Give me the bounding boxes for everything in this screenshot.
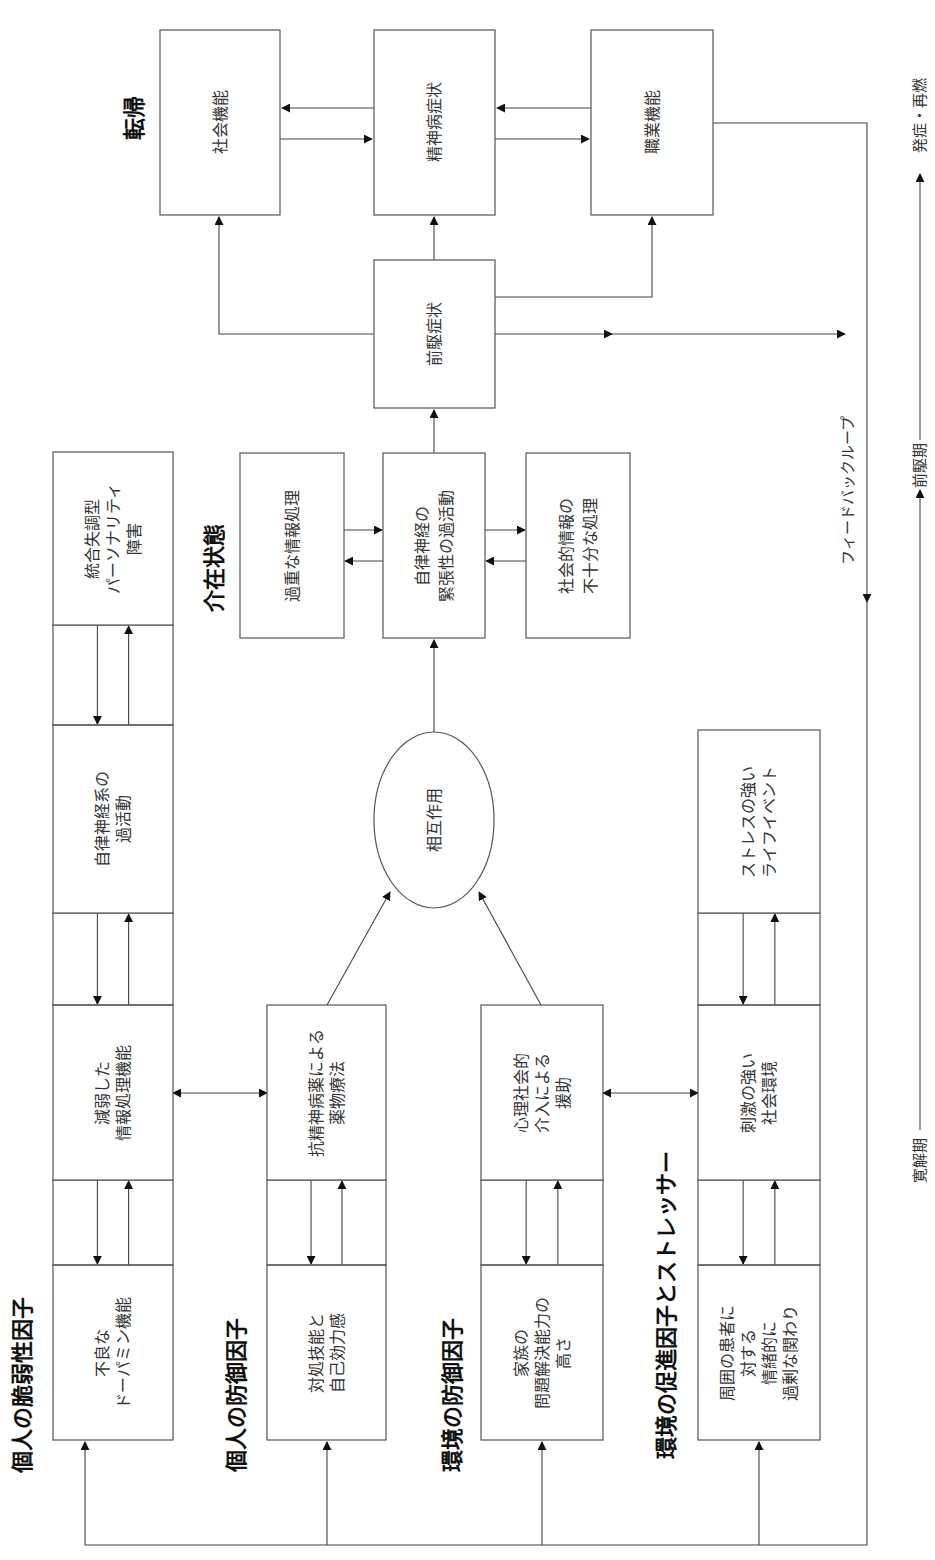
environmental-stressors-box-label-line: 周囲の患者に bbox=[718, 1305, 737, 1401]
vulnerability-box-label-line: 自律神経系の bbox=[93, 771, 112, 867]
environmental-stressors-box-label-line: 情緒的に bbox=[760, 1321, 779, 1385]
outcome-box-label: 精神病症状 bbox=[425, 82, 444, 162]
arrow-prodromal-to-occupational bbox=[495, 217, 652, 297]
environmental-stressors-box-label-line: 対する bbox=[739, 1329, 758, 1377]
prodromal-label-line: 前駆症状 bbox=[425, 302, 444, 366]
environmental-stressors-box-label-line: 社会環境 bbox=[760, 1061, 779, 1125]
vulnerability-stress-model-diagram: 不良なドーパミン機能減弱した情報処理機能自律神経系の過活動統合失調型パーソナリテ… bbox=[0, 0, 935, 1560]
outcome-box-label-line: 職業機能 bbox=[643, 90, 662, 154]
prodromal-label: 前駆症状 bbox=[425, 302, 444, 366]
personal-protective-box bbox=[267, 1265, 386, 1440]
outcome-box-label-line: 社会機能 bbox=[211, 90, 230, 154]
environmental-stressors-box-label-line: ライフイベント bbox=[760, 766, 779, 878]
timeline-phase-prodromal: 前駆期 bbox=[911, 443, 929, 488]
environmental-stressors-box bbox=[698, 1265, 820, 1440]
timeline-phase-remission: 寛解期 bbox=[911, 1138, 929, 1183]
environmental-protective-box-label-line: 問題解決能力の bbox=[533, 1297, 552, 1409]
section-title-personal-protective: 個人の防御因子 bbox=[224, 1318, 249, 1473]
vulnerability-connector bbox=[53, 625, 173, 725]
section-title-vulnerability-line: 個人の脆弱性因子 bbox=[10, 1297, 35, 1474]
section-title-environmental-stressors: 環境の促進因子とストレッサー bbox=[654, 1151, 679, 1459]
environmental-protective-box-label-line: 心理社会的 bbox=[512, 1053, 531, 1133]
environmental-stressors-box-label-line: 刺激の強い bbox=[739, 1053, 758, 1133]
intermediate-box-label: 過重な情報処理 bbox=[283, 490, 302, 602]
section-title-vulnerability: 個人の脆弱性因子 bbox=[10, 1297, 35, 1474]
vulnerability-box-label-line: 障害 bbox=[125, 523, 144, 555]
vulnerability-box-label-line: パーソナリティ bbox=[104, 483, 123, 594]
vulnerability-box bbox=[53, 725, 173, 913]
environmental-stressors-connector bbox=[698, 1180, 820, 1265]
feedback-loop-label-line: フィードバックループ bbox=[839, 416, 857, 565]
section-title-intermediate-line: 介在状態 bbox=[202, 524, 227, 613]
intermediate-box-label-line: 不十分な処理 bbox=[581, 498, 600, 594]
arrow-prodromal-to-social bbox=[219, 217, 374, 334]
personal-protective-box-label-line: 自己効力感 bbox=[328, 1313, 347, 1393]
outcome-box-label: 職業機能 bbox=[643, 90, 662, 154]
vulnerability-box bbox=[53, 1005, 173, 1180]
section-title-environmental-protective: 環境の防御因子 bbox=[440, 1318, 465, 1472]
environmental-stressors-box bbox=[698, 730, 820, 913]
environmental-protective-box-label-line: 介入による bbox=[533, 1053, 552, 1133]
intermediate-box-label-line: 社会的情報の bbox=[557, 498, 576, 594]
vulnerability-box-label-line: ドーパミン機能 bbox=[114, 1297, 133, 1409]
outcome-box-label: 社会機能 bbox=[211, 90, 230, 154]
personal-protective-box-label-line: 対処技能と bbox=[307, 1313, 326, 1393]
vulnerability-box-label-line: 統合失調型 bbox=[83, 499, 102, 579]
interaction-label: 相互作用 bbox=[425, 788, 444, 852]
timeline-phase-remission-line: 寛解期 bbox=[911, 1138, 929, 1183]
intermediate-box bbox=[526, 453, 630, 638]
personal-protective-box-label-line: 抗精神病薬による bbox=[307, 1029, 326, 1157]
section-title-outcome-line: 転帰 bbox=[122, 96, 147, 140]
environmental-stressors-box-label-line: ストレスの強い bbox=[739, 766, 758, 878]
section-title-personal-protective-line: 個人の防御因子 bbox=[224, 1318, 249, 1473]
intermediate-box-label-line: 緊張性の過活動 bbox=[437, 490, 456, 602]
personal-protective-box bbox=[267, 1005, 386, 1180]
intermediate-box-label-line: 過重な情報処理 bbox=[283, 490, 302, 602]
environmental-protective-connector bbox=[481, 1180, 603, 1265]
section-title-intermediate: 介在状態 bbox=[202, 524, 227, 613]
section-title-outcome: 転帰 bbox=[122, 96, 147, 140]
arrow-environment-to-interaction bbox=[479, 892, 541, 1005]
environmental-stressors-box bbox=[698, 1005, 820, 1180]
environmental-stressors-box-label-line: 過剰な関わり bbox=[781, 1305, 800, 1401]
vulnerability-box-label-line: 情報処理機能 bbox=[114, 1045, 133, 1141]
vulnerability-box bbox=[53, 1265, 173, 1440]
outcome-box-label-line: 精神病症状 bbox=[425, 82, 444, 162]
environmental-stressors-connector bbox=[698, 913, 820, 1005]
personal-protective-box-label-line: 薬物療法 bbox=[328, 1061, 347, 1125]
environmental-protective-box-label-line: 援助 bbox=[554, 1077, 573, 1109]
vulnerability-connector bbox=[53, 1180, 173, 1265]
intermediate-box-label-line: 自律神経の bbox=[413, 506, 432, 586]
arrow-personal-to-interaction bbox=[327, 892, 390, 1005]
vulnerability-box-label-line: 不良な bbox=[93, 1329, 112, 1377]
vulnerability-box-label-line: 減弱した bbox=[93, 1061, 112, 1125]
environmental-protective-box-label-line: 高さ bbox=[554, 1337, 573, 1369]
interaction-label-line: 相互作用 bbox=[425, 788, 444, 852]
section-title-environmental-protective-line: 環境の防御因子 bbox=[440, 1318, 465, 1472]
intermediate-box bbox=[383, 453, 485, 638]
timeline-phase-prodromal-line: 前駆期 bbox=[911, 443, 929, 488]
personal-protective-connector bbox=[267, 1180, 386, 1265]
timeline-phase-onset-relapse-line: 発症・再燃 bbox=[911, 78, 929, 153]
feedback-loop-label: フィードバックループ bbox=[839, 416, 857, 565]
section-title-environmental-stressors-line: 環境の促進因子とストレッサー bbox=[654, 1151, 679, 1459]
environmental-protective-box-label-line: 家族の bbox=[512, 1329, 531, 1377]
timeline-phase-onset-relapse: 発症・再燃 bbox=[911, 78, 929, 153]
vulnerability-connector bbox=[53, 913, 173, 1005]
vulnerability-box-label-line: 過活動 bbox=[114, 795, 133, 843]
